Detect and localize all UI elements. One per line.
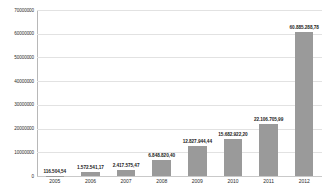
bar-value-label: 12.827.944,44 [165,139,229,144]
bar-value-label: 15.682.922,20 [201,132,265,137]
bar [224,139,243,176]
bar [295,32,314,176]
bar-value-label: 60.885.288,78 [272,25,325,30]
x-axis-tick-label: 2011 [251,178,287,184]
y-axis-tick-label: 0 [0,174,34,179]
y-axis-tick-label: 60000000 [0,31,34,36]
bar [152,160,171,176]
gridline [37,57,322,58]
y-axis-tick-label: 30000000 [0,102,34,107]
x-axis-tick-label: 2007 [108,178,144,184]
gridline [37,129,322,130]
x-axis-tick-label: 2009 [180,178,216,184]
y-axis-tick-label: 50000000 [0,55,34,60]
y-axis-labels: 0100000002000000030000000400000005000000… [0,0,34,191]
x-axis-labels: 20052006200720082009201020112012 [37,178,322,190]
bar [117,170,136,176]
x-axis-tick-label: 2005 [37,178,73,184]
gridline [37,105,322,106]
x-axis-tick-label: 2008 [144,178,180,184]
y-axis-tick-label: 20000000 [0,126,34,131]
bar-value-label: 2.417.575,47 [94,163,158,168]
y-axis-tick-label: 10000000 [0,150,34,155]
bar [188,146,207,176]
bar [259,124,278,176]
gridline [37,34,322,35]
y-axis-tick-label: 40000000 [0,79,34,84]
gridline [37,81,322,82]
bar [46,176,65,177]
bar-chart: 0100000002000000030000000400000005000000… [0,0,325,191]
bar-value-label: 22.106.705,99 [237,117,301,122]
bar-value-label: 6.848.820,40 [130,153,194,158]
x-axis-tick-label: 2006 [73,178,109,184]
x-axis-tick-label: 2012 [286,178,322,184]
bar [81,172,100,176]
y-axis-tick-label: 70000000 [0,8,34,13]
gridline [37,10,322,11]
x-axis-tick-label: 2010 [215,178,251,184]
gridline [37,176,322,177]
plot-area: 116.504,541.572.541,172.417.575,476.848.… [37,10,322,176]
